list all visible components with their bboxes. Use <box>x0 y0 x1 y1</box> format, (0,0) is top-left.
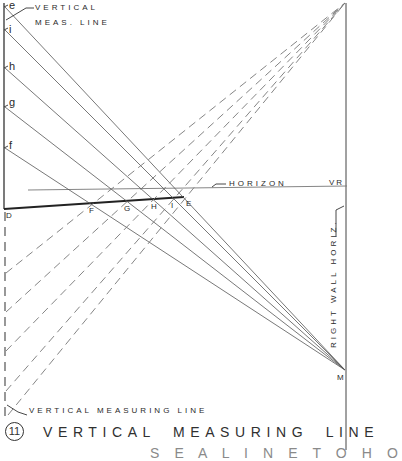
point-label-h: h <box>9 61 15 72</box>
point-label-H: H <box>151 203 157 211</box>
leader-arrow-bottom <box>7 405 27 415</box>
dashed-vanishing-rays <box>6 3 345 415</box>
point-label-f: f <box>9 140 12 151</box>
vertical-meas-line-label-2: MEAS. LINE <box>35 19 110 27</box>
vertical-measuring-line-bottom-label: VERTICAL MEASURING LINE <box>29 407 207 415</box>
horizon-line <box>28 186 347 190</box>
figure-number-badge: 11 <box>5 422 24 441</box>
right-wall-horiz-label: RIGHT WALL HORIZ. <box>330 220 338 349</box>
measuring-rays <box>5 7 345 370</box>
horizon-label: HORIZON <box>229 180 287 188</box>
point-label-i: i <box>9 24 11 35</box>
vr-label: VR <box>329 179 344 187</box>
point-label-d: D <box>6 212 12 220</box>
vertical-meas-line-label-1: VERTICAL <box>35 4 98 12</box>
point-label-e: e <box>9 0 15 11</box>
point-label-g: g <box>9 97 15 108</box>
leader-arrow-horizon <box>212 184 226 187</box>
figure-title: VERTICAL MEASURING LINE <box>43 425 379 439</box>
m-label: M <box>337 374 344 382</box>
point-label-F: F <box>89 207 94 215</box>
point-label-E: E <box>186 200 191 208</box>
point-label-G: G <box>124 205 130 213</box>
figure-subtitle-partial: S E A L I N E T O H O <box>150 446 402 460</box>
point-label-I: I <box>171 202 173 210</box>
